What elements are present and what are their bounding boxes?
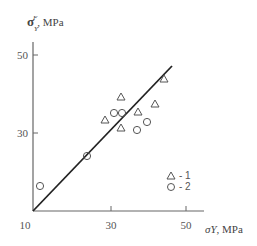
- legend-label-2: - 2: [179, 181, 191, 192]
- triangle-marker: [117, 124, 125, 131]
- legend-circle-icon: [168, 184, 175, 191]
- triangle-marker: [117, 93, 125, 100]
- circle-marker: [36, 182, 43, 189]
- triangle-marker: [101, 116, 109, 123]
- series-2-circles: [36, 109, 150, 189]
- y-axis-label: σYF, MPa: [27, 14, 64, 33]
- y-tick-label-30: 30: [17, 127, 29, 139]
- y-tick-label-50: 50: [17, 49, 29, 61]
- series-1-triangles: [101, 75, 168, 131]
- x-tick-label-50: 50: [181, 219, 193, 231]
- circle-marker: [110, 109, 117, 116]
- circle-marker: [133, 126, 140, 133]
- legend-triangle-icon: [167, 172, 175, 179]
- scatter-chart: 50 30 10 30 50 σYF, MPa σY, MPa - 1 - 2: [0, 0, 257, 246]
- legend: - 1 - 2: [167, 170, 191, 192]
- x-tick-label-30: 30: [106, 219, 118, 231]
- x-tick-label-10: 10: [20, 219, 32, 231]
- legend-label-1: - 1: [179, 170, 191, 181]
- circle-marker: [118, 109, 125, 116]
- triangle-marker: [151, 100, 159, 107]
- reference-line: [33, 66, 172, 211]
- triangle-marker: [134, 108, 142, 115]
- circle-marker: [143, 118, 150, 125]
- x-axis-label: σY, MPa: [205, 223, 243, 235]
